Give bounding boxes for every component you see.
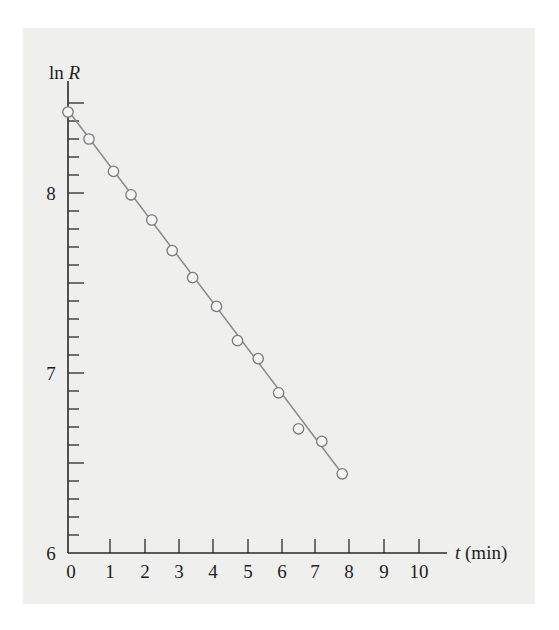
y-tick-label: 8: [46, 183, 56, 204]
x-tick-label: 1: [105, 561, 115, 582]
data-point-marker: [126, 190, 136, 200]
fit-line: [68, 110, 342, 474]
data-point-marker: [84, 134, 94, 144]
data-point-marker: [317, 436, 327, 446]
data-point-marker: [147, 215, 157, 225]
x-tick-label: 4: [208, 561, 218, 582]
data-point-marker: [63, 107, 73, 117]
data-point-marker: [108, 166, 118, 176]
data-point-marker: [253, 353, 263, 363]
x-tick-label: 2: [140, 561, 150, 582]
x-tick-label: 8: [344, 561, 354, 582]
data-point-marker: [211, 301, 221, 311]
y-axis-title: ln R: [49, 62, 81, 83]
data-point-marker: [337, 469, 347, 479]
y-axis: 678: [46, 81, 84, 564]
data-point-marker: [293, 424, 303, 434]
x-axis-title: t (min): [455, 542, 507, 564]
x-tick-label: 0: [66, 561, 76, 582]
data-point-marker: [187, 272, 197, 282]
data-point-marker: [232, 335, 242, 345]
x-axis: 012345678910: [66, 539, 447, 582]
fit-line-segment: [68, 110, 342, 474]
x-tick-label: 7: [310, 561, 320, 582]
data-point-marker: [167, 245, 177, 255]
y-tick-label: 6: [46, 543, 56, 564]
x-tick-label: 5: [243, 561, 253, 582]
x-tick-label: 10: [410, 561, 429, 582]
ln-r-vs-time-chart: 678 012345678910 ln R t (min): [0, 0, 559, 630]
x-tick-label: 3: [174, 561, 184, 582]
x-tick-label: 9: [379, 561, 389, 582]
y-tick-label: 7: [46, 363, 56, 384]
data-point-marker: [273, 388, 283, 398]
x-tick-label: 6: [277, 561, 287, 582]
